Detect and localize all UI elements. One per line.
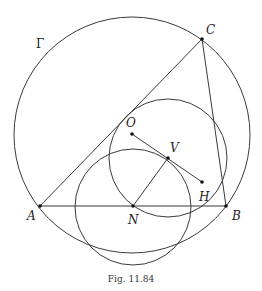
segment-cb [202, 39, 226, 206]
segment-nv [133, 158, 168, 206]
point-v [166, 156, 170, 160]
point-b [224, 204, 228, 208]
label-a: A [26, 209, 36, 223]
label-h: H [198, 190, 210, 204]
figure-caption: Fig. 11.84 [108, 274, 155, 284]
point-n [131, 204, 135, 208]
point-o [130, 132, 134, 136]
label-n: N [127, 213, 139, 227]
geometry-figure: Γ C O V H A N B Fig. 11.84 [0, 0, 262, 291]
label-c: C [206, 23, 215, 37]
point-a [38, 204, 42, 208]
label-o: O [126, 116, 136, 130]
label-v: V [170, 141, 180, 155]
label-gamma: Γ [36, 37, 44, 51]
label-b: B [231, 209, 241, 223]
point-c [200, 37, 204, 41]
point-h [200, 180, 204, 184]
segment-ac [40, 39, 202, 206]
